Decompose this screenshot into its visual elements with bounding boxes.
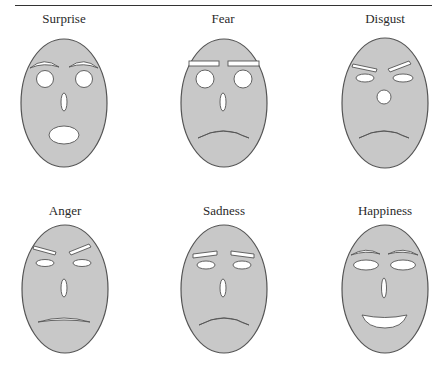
fear-nose-icon <box>220 93 226 111</box>
surprise-right-eye-icon <box>76 71 93 88</box>
faces-canvas <box>0 0 448 376</box>
fear-right-brow-icon <box>228 61 259 66</box>
anger-nose-icon <box>61 279 67 297</box>
anger-right-eye-icon <box>73 260 91 267</box>
surprise-mouth-icon <box>49 126 79 144</box>
sadness-left-eye-icon <box>197 261 215 269</box>
surprise-nose-icon <box>61 93 67 111</box>
disgust-left-eye-icon <box>356 74 374 82</box>
disgust-right-eye-icon <box>393 74 413 82</box>
happiness-left-eye-icon <box>354 260 379 270</box>
surprise-left-eye-icon <box>37 71 54 88</box>
happiness-nose-icon <box>382 278 387 298</box>
sadness-right-eye-icon <box>233 261 251 269</box>
happiness-right-eye-icon <box>391 260 416 270</box>
anger-left-eye-icon <box>36 260 54 267</box>
emotion-faces-figure: Surprise Fear Disgust Anger Sadness Happ… <box>0 0 448 376</box>
fear-left-brow-icon <box>189 61 219 66</box>
sadness-nose-icon <box>220 279 226 297</box>
fear-right-eye-icon <box>234 70 252 88</box>
disgust-nose-icon <box>377 90 391 104</box>
fear-left-eye-icon <box>196 70 214 88</box>
